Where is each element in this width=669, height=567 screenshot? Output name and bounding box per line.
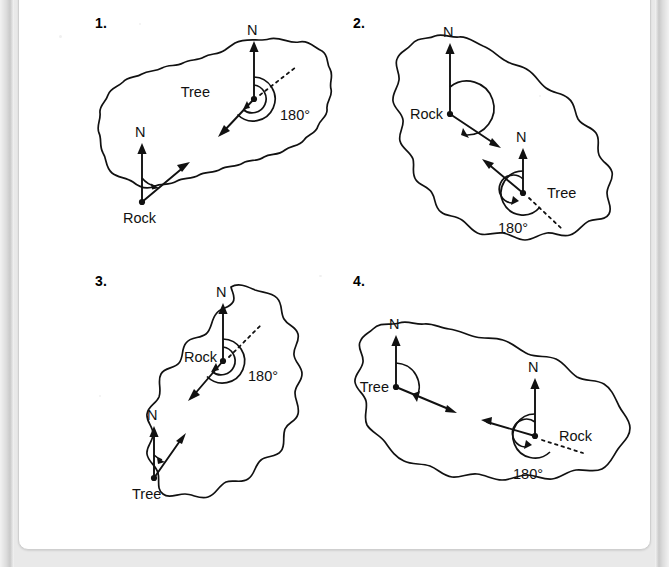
tree-point-1 — [251, 96, 257, 102]
page-gutter-right — [655, 0, 669, 567]
bearing-arrow-tree-1 — [218, 99, 254, 137]
rock-label-4: Rock — [559, 428, 593, 444]
page-background: 1. N — [0, 0, 669, 567]
bearing-arrow-tree-4 — [396, 387, 457, 413]
panel-3: 3. N — [77, 273, 347, 523]
north-arrow-tree-1: N — [247, 22, 259, 99]
north-label-rock-4: N — [528, 359, 538, 375]
panel-4-marker-rock: N Rock 180° — [481, 359, 593, 482]
north-arrow-rock-2: N — [443, 24, 455, 114]
bearing-arrow-rock-2 — [450, 114, 501, 148]
bearing-label-tree-2: 180° — [498, 220, 528, 236]
rock-point-2 — [447, 111, 453, 117]
figure-card: 1. N — [18, 0, 651, 550]
panel-4: 4. N Tree — [335, 273, 645, 523]
rock-point-1 — [139, 199, 145, 205]
panel-3-marker-tree: N Tree — [132, 407, 186, 502]
north-arrow-rock-1: N — [135, 124, 147, 202]
north-label-rock-3: N — [216, 284, 226, 300]
panel-4-marker-tree: N Tree — [360, 316, 457, 413]
tree-point-4 — [393, 384, 399, 390]
panel-1-number: 1. — [95, 15, 107, 31]
north-arrow-tree-2: N — [516, 129, 528, 193]
bearing-arc-arrowhead-rock-2 — [461, 128, 469, 138]
north-arrow-rock-4: N — [528, 359, 540, 436]
north-label-rock-1: N — [135, 124, 145, 140]
bearing-arrow-tree-3 — [154, 433, 186, 478]
bearing-label-rock-4: 180° — [513, 466, 543, 482]
rock-point-4 — [532, 433, 538, 439]
rock-label-2: Rock — [410, 106, 444, 122]
north-label-rock-2: N — [443, 24, 453, 40]
north-label-tree-4: N — [389, 316, 399, 332]
panel-2-marker-rock: N Rock — [410, 24, 501, 148]
panel-1-island-diagram: N Tree 180° — [77, 15, 347, 265]
panel-3-number: 3. — [95, 273, 107, 289]
bearing-arc-arrowhead-tree-2 — [511, 196, 519, 205]
bearing-arrow-rock-3 — [188, 361, 223, 401]
bearing-arrow-rock-1 — [142, 162, 190, 202]
island-outline-2 — [393, 35, 612, 240]
panel-4-island-diagram: N Tree N — [335, 273, 645, 523]
tree-label-3: Tree — [132, 486, 161, 502]
tree-label-1: Tree — [181, 84, 210, 100]
tree-point-2 — [520, 190, 526, 196]
panel-3-marker-rock: N Rock 180° — [184, 284, 278, 401]
panel-4-number: 4. — [353, 273, 365, 289]
north-label-tree-1: N — [247, 22, 257, 38]
north-label-tree-2: N — [516, 129, 526, 145]
page-gutter-left — [0, 0, 14, 567]
north-arrow-tree-3: N — [147, 407, 159, 478]
north-arrow-rock-3: N — [216, 284, 228, 361]
bearing-arc-rock-2 — [450, 81, 494, 135]
island-outline-3 — [147, 285, 302, 498]
rock-point-3 — [220, 358, 226, 364]
panel-2-number: 2. — [353, 15, 365, 31]
panel-1: 1. N — [77, 15, 347, 265]
north-label-tree-3: N — [147, 407, 157, 423]
tree-label-4: Tree — [360, 379, 389, 395]
rock-label-1: Rock — [123, 210, 157, 226]
panel-1-marker-tree: N Tree 180° — [181, 22, 310, 137]
panel-2: 2. N Rock — [335, 15, 635, 265]
rock-label-3: Rock — [184, 349, 218, 365]
panel-3-island-diagram: N Rock 180° — [77, 273, 347, 523]
tree-point-3 — [151, 475, 157, 481]
bearing-label-rock-3: 180° — [248, 368, 278, 384]
panel-2-island-diagram: N Rock N — [335, 15, 635, 265]
north-arrow-tree-4: N — [389, 316, 401, 387]
tree-label-2: Tree — [547, 185, 576, 201]
panel-1-marker-rock: N Rock — [123, 124, 190, 226]
bearing-label-tree-1: 180° — [280, 107, 310, 123]
bearing-arc-arrowhead-rock-4 — [524, 440, 532, 449]
